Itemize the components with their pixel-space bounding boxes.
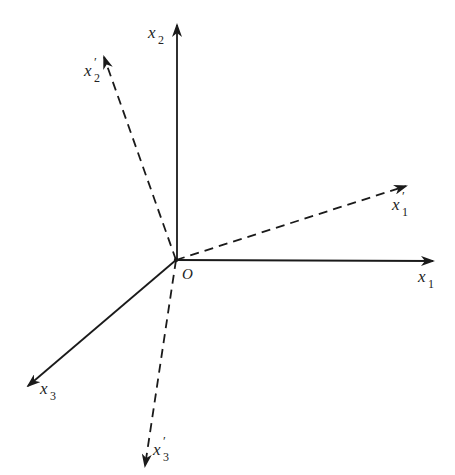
svg-text:x: x	[152, 440, 161, 459]
svg-text:x: x	[417, 267, 426, 286]
axis-x1-prime	[176, 186, 406, 260]
axes-diagram: O x 1 x 2 x 3 x ′ 1 x ′ 2 x ′ 3	[0, 0, 455, 475]
axis-x1	[176, 260, 433, 261]
label-x3-prime: x ′ 3	[152, 433, 169, 464]
svg-text:′: ′	[163, 433, 166, 448]
label-x1-prime: x ′ 1	[391, 188, 408, 219]
label-x2-prime: x ′ 2	[83, 54, 100, 85]
svg-text:x: x	[147, 23, 156, 42]
svg-text:3: 3	[50, 389, 56, 403]
origin-label: O	[182, 266, 193, 282]
svg-text:3: 3	[163, 450, 169, 464]
svg-text:x: x	[83, 61, 92, 80]
axis-x2-prime	[104, 57, 176, 260]
axis-x3-prime	[145, 260, 176, 466]
axis-x3	[28, 260, 176, 386]
label-x1: x 1	[417, 267, 434, 291]
svg-text:1: 1	[402, 205, 408, 219]
svg-text:1: 1	[428, 277, 434, 291]
svg-text:′: ′	[94, 54, 97, 69]
svg-text:2: 2	[158, 33, 164, 47]
svg-text:′: ′	[402, 188, 405, 203]
label-x2: x 2	[147, 23, 164, 47]
svg-text:2: 2	[94, 71, 100, 85]
svg-text:x: x	[39, 379, 48, 398]
label-x3: x 3	[39, 379, 56, 403]
origin-point	[174, 258, 178, 262]
svg-text:x: x	[391, 195, 400, 214]
